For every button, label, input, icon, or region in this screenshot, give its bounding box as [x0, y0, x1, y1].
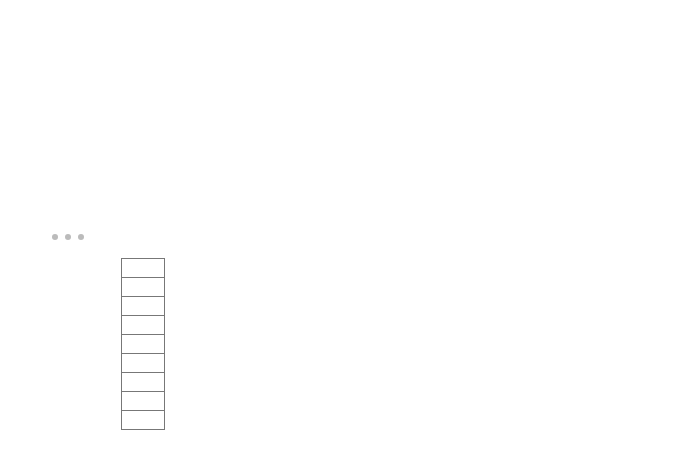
- rho-cell: [122, 259, 165, 278]
- plot-area: [0, 0, 678, 457]
- rho-cell: [122, 316, 165, 335]
- rho-cell: [122, 278, 165, 297]
- rho-cell: [122, 354, 165, 373]
- rho-table: [121, 258, 165, 430]
- trace-style-dots: [52, 226, 91, 244]
- rho-cell: [122, 392, 165, 411]
- rho-cell: [122, 411, 165, 430]
- rho-cell: [122, 335, 165, 354]
- rho-cell: [122, 373, 165, 392]
- rho-cell: [122, 297, 165, 316]
